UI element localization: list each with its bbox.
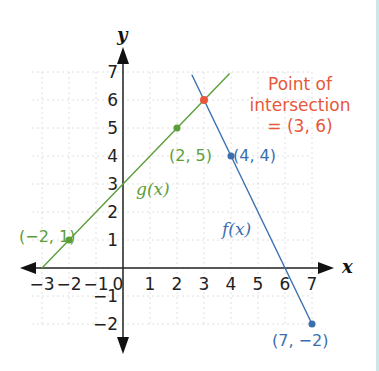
y-axis-up-arrow-icon	[117, 47, 129, 64]
y-tick-label: 7	[107, 62, 118, 82]
point-label-2-5: (2, 5)	[169, 146, 212, 165]
intersection-annotation-line: intersection	[250, 95, 351, 115]
x-tick-label: 2	[172, 274, 183, 294]
y-tick-label: 6	[107, 90, 118, 110]
y-tick-label: 2	[107, 202, 118, 222]
g-function-label: g(x)	[136, 179, 170, 199]
x-axis-right-arrow-icon	[318, 262, 334, 274]
point-label-7-neg2: (7, −2)	[272, 331, 328, 350]
y-tick-labels: −2−11234567	[93, 62, 118, 334]
y-tick-label: 5	[107, 118, 118, 138]
intersection-point	[200, 96, 208, 104]
point-label-neg2-1: (−2, 1)	[19, 227, 75, 246]
x-tick-label: −2	[56, 274, 81, 294]
y-axis-down-arrow-icon	[117, 337, 129, 354]
y-tick-label: 4	[107, 146, 118, 166]
y-tick-label: −1	[93, 286, 118, 306]
intersection-annotation-line: Point of	[268, 74, 333, 94]
g-point	[174, 125, 181, 132]
y-tick-label: 1	[107, 230, 118, 250]
x-axis-label: x	[341, 256, 353, 277]
y-axis-label: y	[116, 24, 129, 45]
x-tick-label: −3	[29, 274, 54, 294]
f-point	[309, 321, 316, 328]
x-tick-label: 3	[199, 274, 210, 294]
point-label-4-4: (4, 4)	[233, 146, 276, 165]
chart-figure: x y −3−2−101234567 −2−11234567 (−2, 1)(2…	[0, 0, 379, 371]
graph-svg: x y −3−2−101234567 −2−11234567 (−2, 1)(2…	[0, 0, 379, 371]
x-axis-left-arrow-icon	[20, 262, 36, 274]
intersection-annotation-line: = (3, 6)	[267, 116, 332, 136]
f-function-label: f(x)	[220, 219, 251, 239]
x-tick-label: 1	[145, 274, 156, 294]
x-tick-labels: −3−2−101234567	[29, 274, 317, 294]
x-tick-label: 5	[253, 274, 264, 294]
x-tick-label: 7	[307, 274, 318, 294]
x-tick-label: 4	[226, 274, 237, 294]
y-tick-label: −2	[93, 314, 118, 334]
